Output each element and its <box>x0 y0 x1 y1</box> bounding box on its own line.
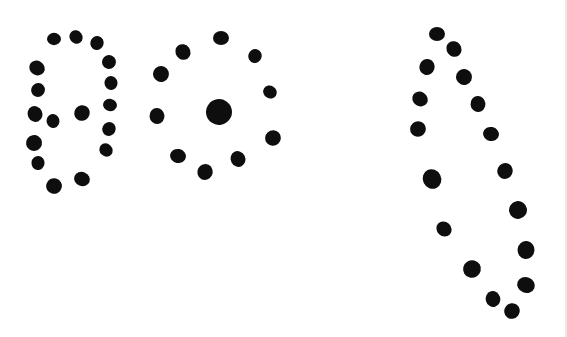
painted-dot <box>72 169 92 188</box>
painted-dot <box>495 160 516 181</box>
painted-dot <box>47 33 61 45</box>
painted-dot <box>484 289 502 308</box>
motif-elongated-loop <box>407 27 537 322</box>
painted-dot <box>151 64 172 85</box>
motif-oval-with-inner-dots <box>25 28 118 197</box>
painted-dot <box>25 104 45 125</box>
painted-dot <box>261 83 280 101</box>
painted-dot <box>67 28 86 47</box>
painted-dot <box>470 95 486 112</box>
painted-dot <box>89 34 106 51</box>
painted-dot <box>508 200 529 221</box>
painted-dot <box>204 97 234 127</box>
painted-dot <box>417 57 436 77</box>
painted-dot <box>169 148 187 165</box>
painted-dot <box>43 175 65 197</box>
painted-dot <box>262 127 284 149</box>
painted-dot <box>26 58 47 79</box>
painted-dot <box>100 53 118 71</box>
painted-dot <box>97 141 116 160</box>
painted-dot <box>460 257 484 281</box>
painted-dot <box>149 107 165 124</box>
painted-dot <box>409 89 430 110</box>
painted-dot <box>515 274 538 295</box>
painted-dot <box>482 126 500 143</box>
painted-dot <box>172 41 193 63</box>
motif-ring-with-center-dot <box>149 31 284 183</box>
painted-dot <box>100 120 118 139</box>
painted-dot <box>429 27 445 41</box>
painted-dot <box>28 80 48 99</box>
painted-dot <box>228 149 248 170</box>
painted-dot <box>45 113 61 130</box>
scanned-dot-painting <box>0 0 567 337</box>
dot-painting-canvas <box>0 0 567 337</box>
painted-dot <box>71 102 93 124</box>
painted-dot <box>213 31 229 45</box>
painted-dot <box>247 47 264 64</box>
painted-dot <box>407 118 429 140</box>
painted-dot <box>433 218 455 239</box>
painted-dot <box>102 98 118 113</box>
painted-dot <box>443 38 464 60</box>
painted-dot <box>517 240 536 260</box>
painted-dot <box>454 67 475 88</box>
painted-dot <box>501 300 523 322</box>
painted-dot <box>25 134 44 152</box>
painted-dot <box>31 155 45 170</box>
painted-dot <box>104 75 118 90</box>
painted-dot <box>419 166 444 192</box>
painted-dot <box>195 161 216 182</box>
